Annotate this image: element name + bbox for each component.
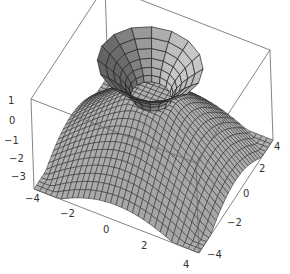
y-tick-label: −2 <box>227 217 242 228</box>
y-tick-label: 0 <box>243 188 249 199</box>
box-edge <box>270 50 273 140</box>
z-tick-label: −2 <box>9 153 24 164</box>
x-tick-label: 0 <box>103 224 109 235</box>
y-tick-label: 2 <box>259 163 265 174</box>
tube-patch <box>143 75 152 82</box>
surface-plot: 10−1−2−3 −4−2024 −4−2024 <box>0 0 290 274</box>
z-axis-tick-labels: 10−1−2−3 <box>4 95 26 182</box>
z-tick-label: −3 <box>11 171 26 182</box>
tube-patch <box>131 27 151 39</box>
x-tick-label: 2 <box>141 240 147 251</box>
y-tick-label: −4 <box>207 249 222 260</box>
x-tick-label: 4 <box>183 259 189 270</box>
box-edge <box>31 99 34 189</box>
box-edge <box>31 0 105 99</box>
z-tick-label: 1 <box>8 95 14 106</box>
z-tick-label: −1 <box>4 135 19 146</box>
x-tick-label: −2 <box>60 208 75 219</box>
z-tick-label: 0 <box>9 115 15 126</box>
x-tick-label: −4 <box>25 193 40 204</box>
y-tick-label: 4 <box>274 141 280 152</box>
